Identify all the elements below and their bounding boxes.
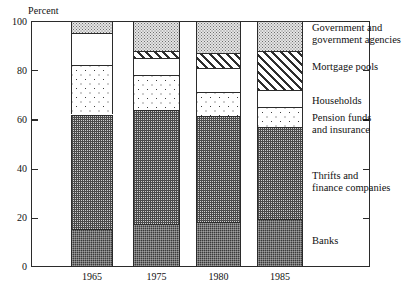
segment-1985-government bbox=[257, 21, 303, 51]
y-tick-mark-right-20 bbox=[363, 218, 370, 219]
y-tick-label-60: 60 bbox=[3, 114, 27, 125]
x-tick-label-1975: 1975 bbox=[133, 271, 180, 282]
legend-label-mortgage-pools: Mortgage pools bbox=[312, 61, 378, 73]
segment-1985-pension bbox=[257, 107, 303, 127]
segment-1965-households bbox=[71, 33, 113, 65]
y-tick-mark-left-20 bbox=[31, 218, 38, 219]
legend-label-pension-funds: Pension funds and insurance bbox=[312, 112, 371, 136]
x-tick-label-1965: 1965 bbox=[71, 271, 113, 282]
y-tick-label-80: 80 bbox=[3, 65, 27, 76]
y-tick-label-40: 40 bbox=[3, 163, 27, 174]
y-tick-label-100: 100 bbox=[3, 16, 27, 27]
segment-1975-households bbox=[133, 58, 180, 75]
legend-label-households: Households bbox=[312, 95, 362, 107]
bar-1980[interactable] bbox=[196, 21, 241, 267]
segment-1975-mortgage bbox=[133, 51, 180, 58]
segment-1980-pension bbox=[196, 92, 241, 115]
segment-1980-banks bbox=[196, 222, 241, 268]
legend-label-government: Government and government agencies bbox=[312, 22, 401, 46]
legend-label-banks: Banks bbox=[312, 235, 338, 247]
segment-1965-banks bbox=[71, 229, 113, 267]
segment-1980-thrifts bbox=[196, 116, 241, 222]
segment-1980-government bbox=[196, 21, 241, 53]
x-tick-label-1985: 1985 bbox=[257, 271, 303, 282]
segment-1965-thrifts bbox=[71, 115, 113, 229]
segment-1985-thrifts bbox=[257, 127, 303, 219]
segment-1980-households bbox=[196, 68, 241, 93]
y-tick-label-20: 20 bbox=[3, 212, 27, 223]
segment-1975-banks bbox=[133, 224, 180, 267]
segment-1980-mortgage bbox=[196, 53, 241, 68]
segment-1965-pension bbox=[71, 65, 113, 114]
segment-1985-mortgage bbox=[257, 51, 303, 90]
stacked-bar-chart: Percent 100 80 60 40 20 0 bbox=[0, 0, 413, 289]
x-tick-label-1980: 1980 bbox=[196, 271, 241, 282]
segment-1975-government bbox=[133, 21, 180, 51]
y-axis-title: Percent bbox=[28, 5, 59, 16]
bar-1965[interactable] bbox=[71, 21, 113, 267]
segment-1985-households bbox=[257, 90, 303, 107]
y-tick-mark-left-80 bbox=[31, 70, 38, 71]
segment-1965-government bbox=[71, 21, 113, 33]
segment-1985-banks bbox=[257, 219, 303, 267]
segment-1975-thrifts bbox=[133, 110, 180, 224]
bar-1985[interactable] bbox=[257, 21, 303, 267]
segment-1975-pension bbox=[133, 75, 180, 110]
y-tick-mark-left-40 bbox=[31, 169, 38, 170]
legend-label-thrifts: Thrifts and finance companies bbox=[312, 170, 390, 194]
y-tick-mark-left-60 bbox=[31, 119, 38, 120]
y-tick-label-0: 0 bbox=[3, 261, 27, 272]
bar-1975[interactable] bbox=[133, 21, 180, 267]
